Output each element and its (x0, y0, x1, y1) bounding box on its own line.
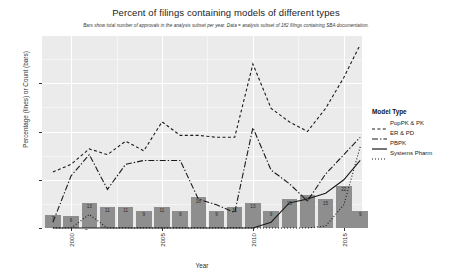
x-tick-mark (162, 228, 163, 231)
legend-key-icon (372, 149, 387, 157)
x-axis-title: Year (42, 262, 362, 269)
legend-item: ER & PD (372, 128, 452, 138)
legend-item-label: Systems Pharm (390, 150, 432, 156)
line-er-pd (53, 128, 360, 223)
chart-subtitle: Bars show total number of approvals in t… (0, 23, 452, 28)
legend-title: Model Type (372, 108, 452, 115)
chart-title: Percent of filings containing models of … (0, 7, 452, 18)
legend-item: PBPK (372, 138, 452, 148)
legend-item-label: PopPK & PK (390, 120, 424, 126)
legend-key-icon (372, 119, 387, 127)
line-poppk-pk (53, 45, 360, 172)
line-pbpk (53, 160, 360, 228)
legend-item: PopPK & PK (372, 118, 452, 128)
legend: Model Type PopPK & PKER & PDPBPKSystems … (372, 108, 452, 158)
x-tick-label: 2015 (341, 233, 348, 247)
legend-items: PopPK & PKER & PDPBPKSystems Pharm (372, 118, 452, 158)
x-tick-mark (71, 228, 72, 231)
plot-area: 76131111911916911139151715229 (42, 35, 362, 228)
x-tick-mark (253, 228, 254, 231)
x-tick-mark (344, 228, 345, 231)
line-series (42, 35, 362, 228)
x-tick-label: 2005 (159, 233, 166, 247)
chart-root: Percent of filings containing models of … (0, 0, 452, 279)
legend-item: Systems Pharm (372, 148, 452, 158)
legend-item-label: ER & PD (390, 130, 414, 136)
legend-item-label: PBPK (390, 140, 406, 146)
legend-key-icon (372, 129, 387, 137)
line-systems-pharm (53, 147, 360, 228)
legend-key-icon (372, 139, 387, 147)
x-tick-label: 2000 (68, 233, 75, 247)
y-axis-title: Percentage (lines) or Count (bars) (22, 15, 29, 185)
x-tick-label: 2010 (250, 233, 257, 247)
